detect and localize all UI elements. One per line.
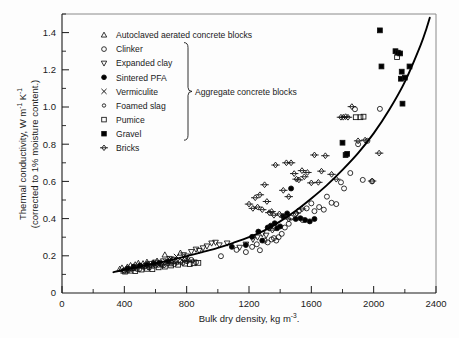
legend-marker-circle-icon xyxy=(102,75,107,80)
legend-label: Foamed slag xyxy=(116,101,166,111)
legend-marker-circle-small-icon xyxy=(102,104,105,107)
data-point-marker xyxy=(375,150,383,156)
fit-curve xyxy=(113,18,429,272)
data-point-marker xyxy=(271,162,279,168)
data-point-marker xyxy=(260,182,268,188)
data-point-marker xyxy=(379,64,384,69)
data-point-marker xyxy=(354,138,362,144)
legend-marker-square-icon xyxy=(102,117,107,122)
data-point-marker xyxy=(360,177,365,182)
legend-item-clinker: Clinker xyxy=(102,44,143,54)
legend-item-foamed-slag: Foamed slag xyxy=(102,101,166,111)
data-point-marker xyxy=(289,186,294,191)
data-point-marker xyxy=(218,254,223,259)
fit-curve-path xyxy=(113,18,429,272)
data-point-marker xyxy=(329,200,334,205)
data-point-marker xyxy=(243,243,248,248)
legend-item-autoclaved-aerated-concrete-blocks: Autoclaved aerated concrete blocks xyxy=(101,30,252,40)
legend-label: Gravel xyxy=(116,129,141,139)
x-axis-title-main: Bulk dry density, kg m xyxy=(199,313,291,324)
data-point-marker xyxy=(348,171,353,176)
y-axis-title-exp2: -1 xyxy=(16,88,23,94)
legend-item-gravel: Gravel xyxy=(102,129,142,139)
legend-label: Sintered PFA xyxy=(116,73,167,83)
data-point-marker xyxy=(279,231,284,236)
data-point-marker xyxy=(353,115,358,120)
data-point-marker xyxy=(257,248,262,253)
data-point-marker xyxy=(398,51,403,56)
x-tick-label: 1600 xyxy=(301,298,322,309)
data-point-marker xyxy=(338,180,343,185)
legend-item-vermiculite: Vermiculite xyxy=(101,87,158,97)
data-point-marker xyxy=(309,201,314,206)
x-tick-label: 2000 xyxy=(363,298,384,309)
legend-label: Autoclaved aerated concrete blocks xyxy=(116,30,252,40)
series-gravel xyxy=(340,28,412,157)
y-axis-subtitle: (corrected to 1% moisture content.) xyxy=(29,80,40,228)
y-tick-label: 0.8 xyxy=(43,139,56,150)
x-axis-title-trailing: . xyxy=(297,313,300,324)
legend-marker-circle-icon xyxy=(102,47,107,52)
x-tick-label: 2400 xyxy=(425,298,446,309)
data-point-marker xyxy=(378,28,383,33)
data-point-marker xyxy=(340,140,345,145)
data-point-marker xyxy=(310,152,318,158)
legend-label: Pumice xyxy=(116,115,145,125)
x-tick-label: 0 xyxy=(59,298,64,309)
legend-item-expanded-clay: Expanded clay xyxy=(101,58,173,68)
data-point-marker xyxy=(260,238,265,243)
data-point-marker xyxy=(303,218,308,223)
data-point-marker xyxy=(290,171,298,177)
legend-item-bricks: Bricks xyxy=(100,143,139,153)
data-point-marker xyxy=(321,207,326,212)
y-tick-label: 0 xyxy=(51,287,56,298)
data-point-marker xyxy=(293,216,298,221)
data-point-marker xyxy=(278,224,283,229)
data-point-marker xyxy=(279,187,287,193)
data-point-marker xyxy=(348,104,356,110)
legend-marker-cross-icon xyxy=(101,89,106,94)
data-point-marker xyxy=(304,206,309,211)
data-point-marker xyxy=(321,153,329,159)
data-point-marker xyxy=(229,244,234,249)
data-point-marker xyxy=(307,219,312,224)
data-point-marker xyxy=(254,242,259,247)
legend-item-pumice: Pumice xyxy=(102,115,145,125)
data-point-marker xyxy=(298,216,303,221)
data-point-marker xyxy=(399,69,404,74)
data-point-marker xyxy=(342,186,347,191)
svg-text:Thermal conductivity, W m-1 K-: Thermal conductivity, W m-1 K-1 xyxy=(16,88,28,220)
data-point-marker xyxy=(285,194,293,200)
y-tick-label: 1.4 xyxy=(43,27,56,38)
x-tick-label: 1200 xyxy=(238,298,259,309)
legend-label: Vermiculite xyxy=(116,87,158,97)
svg-text:Bulk dry density, kg m-3.: Bulk dry density, kg m-3. xyxy=(199,312,300,324)
y-tick-label: 1.2 xyxy=(43,64,56,75)
data-point-marker xyxy=(314,179,322,185)
x-tick-label: 400 xyxy=(116,298,132,309)
legend-marker-triangle-down-icon xyxy=(101,61,106,66)
y-tick-label: 0.4 xyxy=(43,213,56,224)
data-point-marker xyxy=(327,171,335,177)
aggregate-group-label: Aggregate concrete blocks xyxy=(195,87,297,97)
bracket-path xyxy=(184,43,192,141)
data-point-marker xyxy=(377,106,382,111)
y-axis-title: Thermal conductivity, W m-1 K-1 (correct… xyxy=(16,80,40,228)
data-point-marker xyxy=(307,180,315,186)
data-point-marker xyxy=(250,244,255,249)
data-point-marker xyxy=(400,101,405,106)
aggregate-group-bracket: Aggregate concrete blocks xyxy=(184,43,297,141)
y-axis-title-main: Thermal conductivity, W m xyxy=(17,109,28,220)
data-point-marker xyxy=(263,233,269,238)
axis-tick-labels: 0400800120016002000240000.20.40.60.81.01… xyxy=(43,27,447,309)
x-tick-label: 800 xyxy=(179,298,195,309)
legend-label: Bricks xyxy=(116,143,139,153)
fit-curve-path-group xyxy=(113,18,429,272)
data-point-marker xyxy=(263,199,271,205)
data-point-marker xyxy=(317,205,322,210)
y-tick-label: 1.0 xyxy=(43,101,56,112)
data-point-marker xyxy=(312,209,317,214)
series-clinker xyxy=(122,106,383,272)
legend-marker-diamond-line-icon xyxy=(100,145,108,151)
legend-item-sintered-pfa: Sintered PFA xyxy=(102,73,167,83)
